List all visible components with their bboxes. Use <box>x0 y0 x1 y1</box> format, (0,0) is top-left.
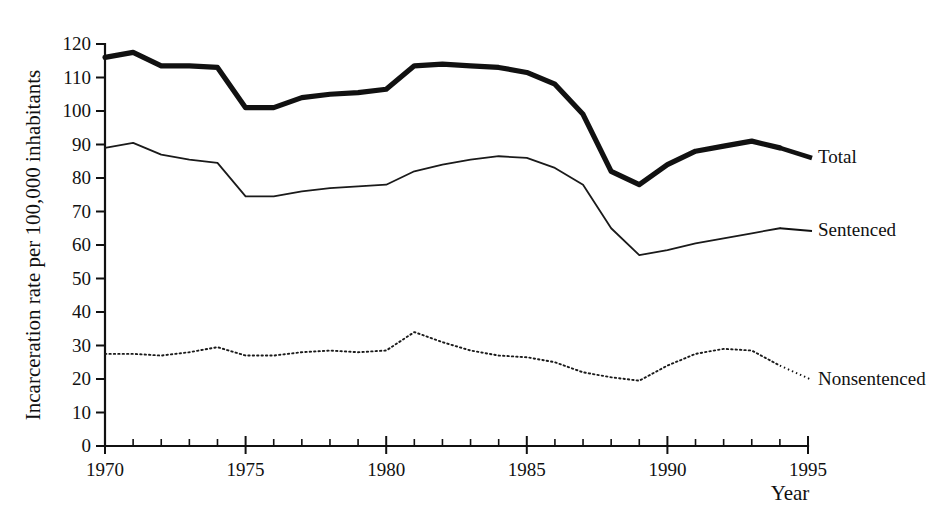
x-tick-label: 1990 <box>648 459 686 480</box>
y-tick-label: 20 <box>72 368 91 389</box>
series-label-nonsentenced: Nonsentenced <box>818 368 926 389</box>
chart-figure: Incarceration rate per 100,000 inhabitan… <box>0 0 928 526</box>
y-tick-label: 50 <box>72 268 91 289</box>
x-tick-label: 1980 <box>367 459 405 480</box>
series-line-nonsentenced <box>105 332 780 381</box>
y-tick-label: 120 <box>63 33 92 54</box>
y-tick-label: 40 <box>72 301 91 322</box>
series-label-sentenced: Sentenced <box>818 219 897 240</box>
y-tick-label: 0 <box>82 435 92 456</box>
x-tick-label: 1970 <box>86 459 124 480</box>
leader-line-sentenced <box>780 228 812 231</box>
y-axis-ticks: 0102030405060708090100110120 <box>63 33 106 456</box>
x-tick-label: 1995 <box>789 459 827 480</box>
y-tick-label: 10 <box>72 402 91 423</box>
y-axis-title: Incarceration rate per 100,000 inhabitan… <box>21 70 45 420</box>
leader-line-nonsentenced <box>780 366 812 380</box>
x-axis-ticks: 197019751980198519901995 <box>86 436 827 480</box>
y-tick-label: 30 <box>72 335 91 356</box>
series-label-group: Total Sentenced Nonsentenced <box>818 146 926 389</box>
y-axis-title-text: Incarceration rate per 100,000 inhabitan… <box>21 70 45 420</box>
series-label-total: Total <box>818 146 857 167</box>
x-tick-label: 1985 <box>508 459 546 480</box>
y-tick-label: 100 <box>63 100 92 121</box>
x-tick-label: 1975 <box>227 459 265 480</box>
y-tick-label: 70 <box>72 201 91 222</box>
y-tick-label: 110 <box>63 67 91 88</box>
leader-line-total <box>780 148 812 158</box>
y-tick-label: 90 <box>72 134 91 155</box>
x-axis-title: Year <box>771 481 810 505</box>
y-tick-label: 80 <box>72 167 91 188</box>
y-tick-label: 60 <box>72 234 91 255</box>
x-axis-title-text: Year <box>771 481 810 505</box>
incarceration-rate-line-chart: Incarceration rate per 100,000 inhabitan… <box>0 0 928 526</box>
